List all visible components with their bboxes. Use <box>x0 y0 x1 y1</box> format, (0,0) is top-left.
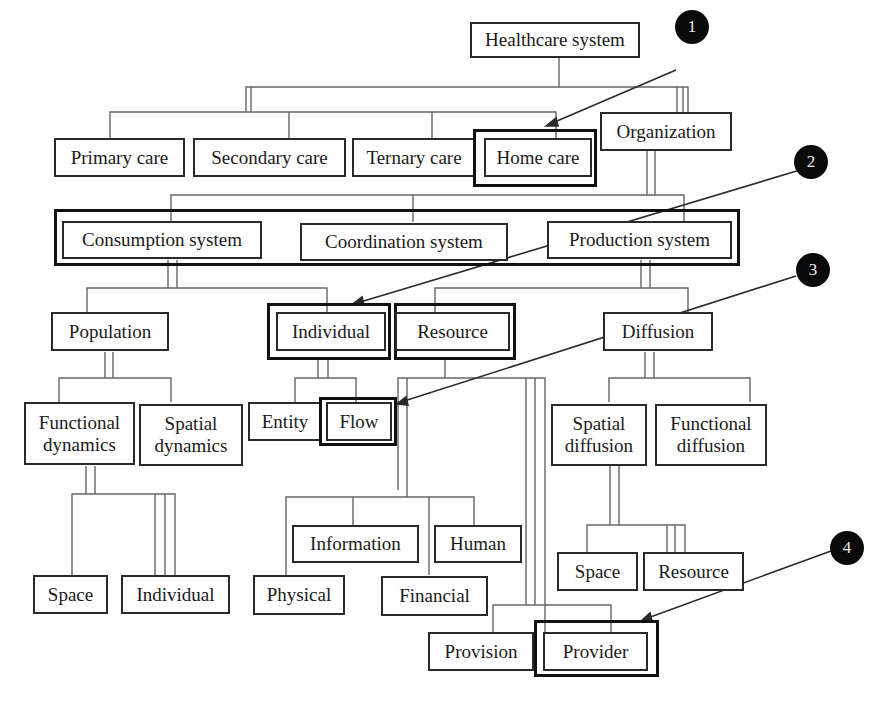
node-flow: Flow <box>326 402 392 441</box>
node-space-right: Space <box>557 552 638 591</box>
node-resource: Resource <box>395 312 510 351</box>
node-primary-care: Primary care <box>54 138 185 177</box>
node-coordination-system: Coordination system <box>300 223 508 261</box>
node-information: Information <box>292 525 419 563</box>
node-functional-diffusion: Functional diffusion <box>655 404 767 466</box>
node-provision: Provision <box>428 632 534 671</box>
node-resource-right: Resource <box>643 552 744 591</box>
node-individual-left: Individual <box>121 575 230 614</box>
node-home-care: Home care <box>484 138 592 177</box>
node-organization: Organization <box>600 112 732 151</box>
annotation-badge-3: 3 <box>796 253 830 287</box>
node-production-system: Production system <box>547 221 732 259</box>
node-spatial-dynamics: Spatial dynamics <box>139 404 243 466</box>
node-provider: Provider <box>543 632 648 671</box>
node-consumption-system: Consumption system <box>62 221 262 259</box>
node-space-left: Space <box>33 575 108 614</box>
node-healthcare-system: Healthcare system <box>470 22 640 58</box>
node-individual: Individual <box>276 312 386 351</box>
hierarchy-diagram: Healthcare system Primary care Secondary… <box>0 0 895 702</box>
node-financial: Financial <box>381 576 488 616</box>
node-diffusion: Diffusion <box>603 312 713 351</box>
node-ternary-care: Ternary care <box>352 138 476 177</box>
annotation-badge-2: 2 <box>794 145 828 179</box>
node-physical: Physical <box>253 575 345 615</box>
node-population: Population <box>51 312 169 351</box>
annotation-badge-1: 1 <box>675 10 709 44</box>
node-human: Human <box>434 525 522 563</box>
node-secondary-care: Secondary care <box>193 138 346 177</box>
annotation-badge-4: 4 <box>830 531 864 565</box>
node-functional-dynamics: Functional dynamics <box>24 402 135 465</box>
node-entity: Entity <box>248 402 322 441</box>
node-spatial-diffusion: Spatial diffusion <box>551 404 647 466</box>
